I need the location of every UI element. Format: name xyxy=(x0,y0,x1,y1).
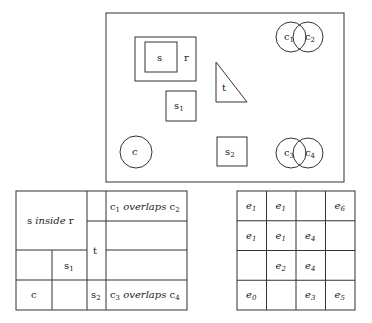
label-s2: s2 xyxy=(225,146,235,159)
label-r: r xyxy=(184,52,189,63)
label-c4: c4 xyxy=(305,147,316,160)
grid-cell-label: e1 xyxy=(276,200,286,213)
triangle-t xyxy=(216,62,247,102)
grid-cell-label: e3 xyxy=(305,289,316,302)
cell-s-inside-r: s inside r xyxy=(27,215,74,226)
cell-s2: s2 xyxy=(91,289,101,302)
label-s: s xyxy=(157,52,162,63)
grid-cell-label: e6 xyxy=(335,200,346,213)
cell-c: c xyxy=(31,289,37,300)
label-c1: c1 xyxy=(284,31,294,44)
cell-t: t xyxy=(93,245,97,256)
label-c2: c2 xyxy=(305,31,315,44)
label-c: c xyxy=(132,146,138,157)
grid-cell-label: e1 xyxy=(276,230,286,243)
label-s1: s1 xyxy=(174,100,184,113)
grid-cell-label: e4 xyxy=(305,230,315,243)
cell-c1-overlaps-c2: c1 overlaps c2 xyxy=(110,201,180,214)
grid-cell-label: e1 xyxy=(246,230,256,243)
label-c3: c3 xyxy=(284,147,294,160)
grid-cell-label: e0 xyxy=(246,289,257,302)
grid-cell-label: e5 xyxy=(335,289,346,302)
grid-cell-label: e2 xyxy=(276,260,287,273)
cell-c3-overlaps-c4: c3 overlaps c4 xyxy=(110,289,180,302)
grid-cell-label: e1 xyxy=(246,200,256,213)
diagram-canvas: s r s1 t c s2 c1 c2 c3 c4 s inside r s1 … xyxy=(0,0,372,323)
grid-cell-label: e4 xyxy=(305,260,315,273)
cell-s1: s1 xyxy=(64,260,74,273)
label-t: t xyxy=(222,82,226,93)
